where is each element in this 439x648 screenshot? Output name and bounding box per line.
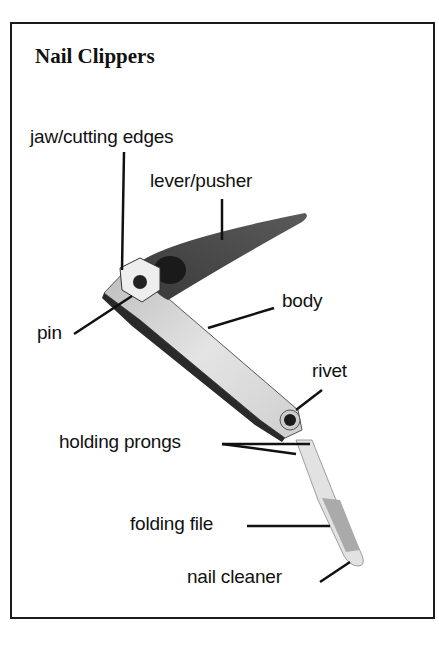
label-body: body xyxy=(282,290,322,312)
label-nail-cleaner: nail cleaner xyxy=(187,566,282,588)
label-folding-file: folding file xyxy=(130,513,213,535)
label-pin: pin xyxy=(37,322,62,344)
label-lever-pusher: lever/pusher xyxy=(150,170,252,192)
label-jaw-cutting-edges: jaw/cutting edges xyxy=(30,126,173,148)
clipper-lever xyxy=(140,213,307,300)
label-rivet: rivet xyxy=(312,360,347,382)
label-holding-prongs: holding prongs xyxy=(59,431,181,453)
nail-clipper-illustration xyxy=(0,0,439,648)
